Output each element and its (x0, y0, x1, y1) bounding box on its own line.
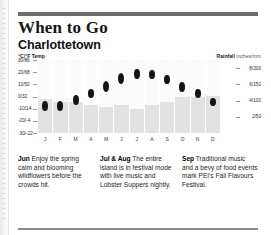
page-subtitle: Charlottetown (18, 38, 101, 52)
chart-column (99, 60, 113, 133)
temperature-range-marker (103, 81, 109, 92)
season-recommendation: Jun Enjoy the spring calm and blooming w… (18, 155, 94, 189)
left-axis-tick-label: 10/50 (18, 82, 30, 87)
right-axis-tick-mark (236, 84, 240, 85)
month-axis-labels: JFMAMJJASOND (38, 136, 220, 142)
climate-chart: °C/°F Temp Rainfall inches/mm 30/8620/68… (18, 53, 264, 148)
rainfall-bar (191, 97, 205, 133)
left-axis-tick-mark (33, 72, 37, 73)
month-label: J (38, 136, 52, 142)
rainfall-bar (160, 102, 174, 133)
temperature-range-marker (149, 70, 155, 80)
season-month-label: Jun (18, 155, 30, 162)
right-axis-tick-label: 2/50 (252, 114, 261, 119)
month-label: F (53, 136, 67, 142)
left-axis-tick-mark (33, 60, 37, 61)
month-label: M (99, 136, 113, 142)
month-label: J (114, 136, 128, 142)
right-axis-tick-mark (236, 101, 240, 102)
left-axis-tick-label: -30/-22 (18, 131, 33, 136)
rainfall-bar (84, 105, 98, 133)
chart-plot-area (38, 60, 220, 133)
left-axis-tick-label: -20/-4 (18, 118, 30, 123)
rainfall-bar (114, 105, 128, 133)
season-recommendations: Jun Enjoy the spring calm and blooming w… (18, 155, 264, 189)
chart-column (145, 60, 159, 133)
temperature-range-marker (195, 89, 201, 98)
right-axis-header: Rainfall inches/mm (217, 53, 261, 59)
chart-column (175, 60, 189, 133)
rainfall-bar (145, 105, 159, 133)
temperature-range-marker (42, 101, 48, 111)
season-description: Traditional music and a bevy of food eve… (182, 155, 258, 188)
temperature-range-marker (134, 69, 140, 80)
header-rule (18, 12, 258, 16)
right-axis-tick-label: 4/100 (249, 98, 261, 103)
temperature-range-marker (73, 95, 79, 105)
left-axis-tick-label: 30/86 (18, 58, 30, 63)
page-gutter-edge (0, 0, 9, 235)
rainfall-bar (175, 97, 189, 133)
right-axis-label: Rainfall (217, 53, 235, 59)
temperature-range-marker (179, 82, 185, 92)
month-label: D (206, 136, 220, 142)
chart-column (53, 60, 67, 133)
season-recommendation: Jul & Aug The entire island is in festiv… (100, 155, 176, 189)
left-axis-tick-mark (33, 97, 37, 98)
left-axis-tick-label: 0/32 (18, 94, 27, 99)
rainfall-bar (130, 109, 144, 133)
rainfall-bar (69, 102, 83, 133)
when-to-go-page: When to Go Charlottetown °C/°F Temp Rain… (0, 0, 271, 235)
right-axis-tick-mark (236, 117, 240, 118)
chart-column (130, 60, 144, 133)
season-recommendation: Sep Traditional music and a bevy of food… (182, 155, 258, 189)
gutter-tick-marks (2, 8, 5, 223)
month-label: O (175, 136, 189, 142)
chart-column (69, 60, 83, 133)
left-axis-tick-label: 20/68 (18, 70, 30, 75)
month-label: S (160, 136, 174, 142)
month-label: M (69, 136, 83, 142)
right-axis-tick-mark (236, 68, 240, 69)
temperature-range-marker (88, 89, 94, 98)
left-axis-tick-mark (33, 133, 37, 134)
chart-column (38, 60, 52, 133)
month-label: N (191, 136, 205, 142)
chart-column (206, 60, 220, 133)
chart-column (160, 60, 174, 133)
month-label: A (145, 136, 159, 142)
left-axis-label: Temp (32, 53, 45, 59)
temperature-range-marker (57, 101, 63, 111)
left-axis-tick-mark (33, 84, 37, 85)
rainfall-bar (99, 107, 113, 133)
right-axis-unit: inches/mm (236, 53, 261, 59)
left-axis-tick-label: -10/14 (18, 106, 31, 111)
left-axis-tick-mark (33, 121, 37, 122)
left-axis-tick-mark (33, 109, 37, 110)
chart-columns (38, 60, 220, 133)
season-month-label: Jul & Aug (100, 155, 131, 162)
month-label: A (84, 136, 98, 142)
footer-rule (18, 228, 258, 230)
chart-column (84, 60, 98, 133)
month-label: J (130, 136, 144, 142)
temperature-range-marker (210, 98, 216, 107)
temperature-range-marker (164, 75, 170, 85)
chart-column (191, 60, 205, 133)
right-axis-tick-label: 8/200 (249, 66, 261, 71)
right-axis-tick-label: 6/150 (249, 82, 261, 87)
temperature-range-marker (118, 73, 124, 84)
chart-column (114, 60, 128, 133)
page-content: When to Go Charlottetown °C/°F Temp Rain… (18, 0, 264, 235)
season-month-label: Sep (182, 155, 194, 162)
page-title: When to Go (18, 18, 108, 38)
